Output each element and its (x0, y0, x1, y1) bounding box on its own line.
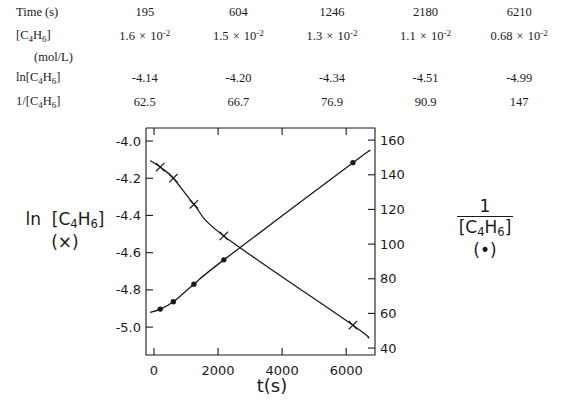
conc-base-1: 10 (244, 29, 257, 43)
cell-ln-3: -4.51 (379, 66, 473, 90)
row-label-inverse-concentration: 1/[C4H6] (6, 90, 98, 114)
right-ticklabel: 80 (380, 271, 397, 286)
left-axis-ticks (146, 141, 153, 327)
row-label-concentration-units: (mol/L) (6, 48, 98, 66)
ln-concentration-curve (150, 161, 369, 339)
right-axis-ticklabels: 406080100120140160 (380, 133, 405, 356)
y-right-marker-legend: (•) (420, 241, 550, 261)
ln-marker-x (156, 163, 164, 171)
kinetics-table: Time (s) 195 604 1246 2180 6210 [C4H6] 1… (6, 0, 566, 114)
inverse-marker-dot (171, 299, 176, 304)
inverse-fraction: 1 [C4H6] (457, 198, 514, 240)
cell-time-2: 1246 (285, 0, 379, 24)
top-axis-ticks (154, 128, 346, 135)
cell-time-0: 195 (98, 0, 192, 24)
bottom-ticklabel: 0 (150, 363, 158, 378)
inverse-marker-dot (158, 306, 163, 311)
right-axis-ticks (368, 140, 375, 348)
right-ticklabel: 120 (380, 202, 405, 217)
plot-canvas: -4.0-4.2-4.4-4.6-4.8-5.0 406080100120140… (0, 118, 572, 411)
y-axis-right-label: 1 [C4H6] (•) (420, 198, 550, 260)
right-ticklabel: 40 (380, 341, 397, 356)
left-ticklabel: -4.0 (116, 134, 141, 149)
data-table: Time (s) 195 604 1246 2180 6210 [C4H6] 1… (0, 0, 572, 118)
right-ticklabel: 140 (380, 167, 405, 182)
cell-ln-4: -4.99 (472, 66, 566, 90)
bottom-axis-ticks (154, 348, 346, 355)
cell-conc-0: 1.6 × 10-2 (98, 24, 192, 48)
cell-conc-2: 1.3 × 10-2 (285, 24, 379, 48)
ln-concentration-markers (156, 163, 357, 330)
fraction-denominator: [C4H6] (457, 217, 514, 240)
right-ticklabel: 160 (380, 133, 405, 148)
conc-exp-2: -2 (350, 28, 358, 38)
table-row-inverse-concentration: 1/[C4H6] 62.5 66.7 76.9 90.9 147 (6, 90, 566, 114)
left-ticklabel: -5.0 (116, 320, 141, 335)
ln-marker-x (349, 321, 357, 329)
cell-conc-1: 1.5 × 10-2 (192, 24, 286, 48)
cell-conc-4: 0.68 × 10-2 (472, 24, 566, 48)
conc-base-0: 10 (150, 29, 163, 43)
y-axis-left-label: ln [C4H6] (×) (2, 210, 128, 252)
cell-time-1: 604 (192, 0, 286, 24)
right-ticklabel: 100 (380, 237, 405, 252)
right-ticklabel: 60 (380, 306, 397, 321)
table-row-ln-concentration: ln[C4H6] -4.14 -4.20 -4.34 -4.51 -4.99 (6, 66, 566, 90)
conc-exp-1: -2 (256, 28, 264, 38)
conc-mantissa-3: 1.1 (400, 29, 416, 43)
cell-time-4: 6210 (472, 0, 566, 24)
y-left-marker-legend: (×) (2, 233, 128, 253)
y-left-formula: [C4H6] (46, 209, 104, 229)
table-row-concentration-units: (mol/L) (6, 48, 566, 66)
cell-inv-2: 76.9 (285, 90, 379, 114)
ln-marker-x (220, 232, 228, 240)
cell-ln-2: -4.34 (285, 66, 379, 90)
table-row-concentration: [C4H6] 1.6 × 10-2 1.5 × 10-2 1.3 × 10-2 … (6, 24, 566, 48)
row-label-ln-concentration: ln[C4H6] (6, 66, 98, 90)
conc-exp-0: -2 (163, 28, 171, 38)
cell-ln-1: -4.20 (192, 66, 286, 90)
cell-inv-3: 90.9 (379, 90, 473, 114)
ln-marker-x (169, 174, 177, 182)
inverse-concentration-curve (150, 150, 370, 312)
x-axis-label: t(s) (212, 376, 332, 397)
inverse-marker-dot (191, 281, 196, 286)
conc-base-2: 10 (337, 29, 350, 43)
conc-base-3: 10 (431, 29, 444, 43)
cell-conc-3: 1.1 × 10-2 (379, 24, 473, 48)
cell-time-3: 2180 (379, 0, 473, 24)
cell-ln-0: -4.14 (98, 66, 192, 90)
inverse-marker-dot (221, 257, 226, 262)
conc-mantissa-0: 1.6 (119, 29, 135, 43)
kinetics-plot-figure: -4.0-4.2-4.4-4.6-4.8-5.0 406080100120140… (0, 118, 572, 411)
conc-base-4: 10 (528, 29, 541, 43)
conc-mantissa-2: 1.3 (307, 29, 323, 43)
conc-exp-3: -2 (444, 28, 452, 38)
plot-frame (146, 128, 375, 355)
row-label-time: Time (s) (6, 0, 98, 24)
conc-mantissa-4: 0.68 (491, 29, 513, 43)
cell-inv-0: 62.5 (98, 90, 192, 114)
conc-mantissa-1: 1.5 (213, 29, 229, 43)
cell-inv-1: 66.7 (192, 90, 286, 114)
fraction-numerator: 1 (457, 198, 514, 217)
row-label-concentration: [C4H6] (6, 24, 98, 48)
left-ticklabel: -4.2 (116, 171, 141, 186)
inverse-marker-dot (350, 160, 355, 165)
y-left-ln-text: ln (26, 209, 42, 229)
conc-exp-4: -2 (540, 28, 548, 38)
left-ticklabel: -4.8 (116, 282, 141, 297)
ln-marker-x (190, 200, 198, 208)
bottom-ticklabel: 6000 (330, 363, 363, 378)
table-row-time: Time (s) 195 604 1246 2180 6210 (6, 0, 566, 24)
cell-inv-4: 147 (472, 90, 566, 114)
